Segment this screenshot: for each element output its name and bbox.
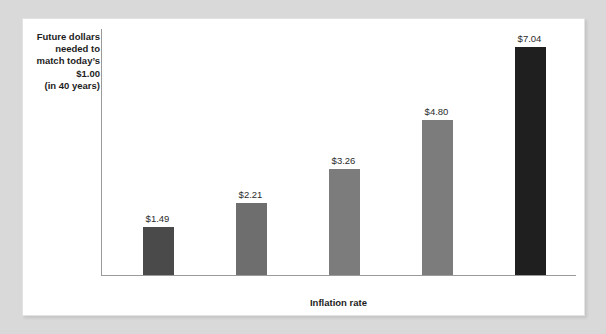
y-axis-line xyxy=(101,29,102,276)
bar[interactable] xyxy=(143,227,174,275)
y-axis-label-line-1: Future dollars xyxy=(31,31,100,43)
bar-value-label: $1.49 xyxy=(115,213,201,224)
y-axis-label-line-5: (in 40 years) xyxy=(31,80,100,92)
x-axis-label: Inflation rate xyxy=(101,297,576,308)
bar[interactable] xyxy=(422,120,453,275)
bar-value-label: $7.04 xyxy=(487,33,573,44)
y-axis-label-line-4: $1.00 xyxy=(31,68,100,80)
x-axis-line xyxy=(101,275,576,276)
y-axis-label-line-2: needed to xyxy=(31,43,100,55)
chart-panel: Future dollars needed to match today’s $… xyxy=(22,18,585,316)
bar-value-label: $3.26 xyxy=(301,155,387,166)
bar[interactable] xyxy=(329,169,360,275)
plot-area: $1.49 1% $2.21 2% $3.26 3% $4.80 4% $7.0… xyxy=(101,29,576,276)
bar-value-label: $2.21 xyxy=(208,189,294,200)
bar[interactable] xyxy=(515,47,546,275)
y-axis-label-line-3: match today’s xyxy=(31,55,100,67)
bar-value-label: $4.80 xyxy=(394,106,480,117)
y-axis-label: Future dollars needed to match today’s $… xyxy=(31,31,100,92)
bar[interactable] xyxy=(236,203,267,275)
